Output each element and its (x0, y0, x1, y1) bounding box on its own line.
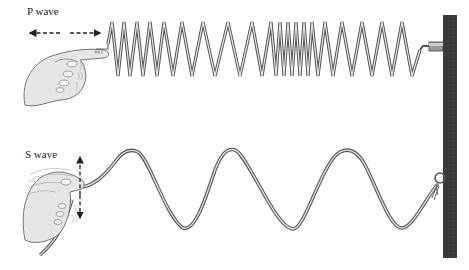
rope (40, 150, 445, 255)
diagram-canvas (0, 0, 469, 270)
wall (443, 15, 457, 258)
p-wave-label: P wave (27, 5, 59, 17)
s-wave-label: S wave (25, 148, 57, 160)
p-wave-hand (24, 44, 109, 106)
s-wave-hand (23, 168, 84, 242)
wave-diagram: P wave S wave (0, 0, 469, 270)
spring (108, 22, 443, 76)
